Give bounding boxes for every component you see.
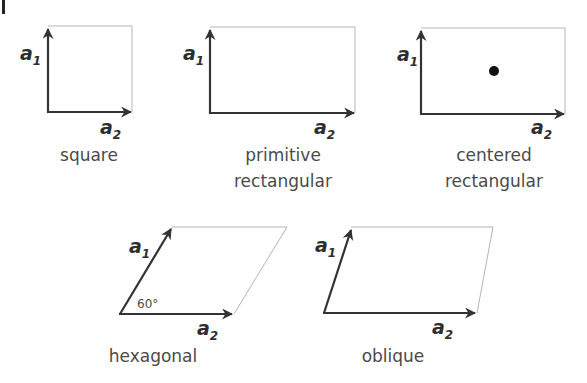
cell-edge xyxy=(210,27,355,113)
label-a1: a1 xyxy=(315,234,336,260)
cell-edge xyxy=(172,227,287,314)
lattice-hexagonal: a1 a2 60° hexagonal xyxy=(109,227,287,366)
vector-a1-arrow xyxy=(324,230,351,313)
lattice-name-line2: rectangular xyxy=(234,171,332,191)
label-a2: a2 xyxy=(531,116,552,142)
angle-label: 60° xyxy=(137,297,158,311)
lattice-name-line1: primitive xyxy=(245,145,321,165)
lattice-square: a1 a2 square xyxy=(20,26,132,165)
label-a2: a2 xyxy=(100,116,121,142)
label-a1: a1 xyxy=(183,42,204,68)
label-a2: a2 xyxy=(314,116,335,142)
label-a1: a1 xyxy=(129,235,150,261)
cell-edge xyxy=(48,26,132,112)
center-lattice-point xyxy=(489,66,499,76)
cell-edge xyxy=(351,227,493,313)
lattice-oblique: a1 a2 oblique xyxy=(315,227,493,366)
label-a2: a2 xyxy=(197,317,218,343)
bravais-lattices-2d-diagram: a1 a2 square a1 a2 primitive rectangular… xyxy=(0,0,587,383)
lattice-name: hexagonal xyxy=(109,346,198,366)
label-a1: a1 xyxy=(20,42,41,68)
lattice-name: oblique xyxy=(362,346,425,366)
lattice-name-line2: rectangular xyxy=(445,171,543,191)
panel-mark xyxy=(2,0,5,14)
lattice-primitive-rectangular: a1 a2 primitive rectangular xyxy=(183,27,355,191)
label-a2: a2 xyxy=(432,316,453,342)
lattice-centered-rectangular: a1 a2 centered rectangular xyxy=(397,28,565,191)
lattice-name: square xyxy=(60,145,118,165)
lattice-name-line1: centered xyxy=(456,145,532,165)
label-a1: a1 xyxy=(397,43,418,69)
